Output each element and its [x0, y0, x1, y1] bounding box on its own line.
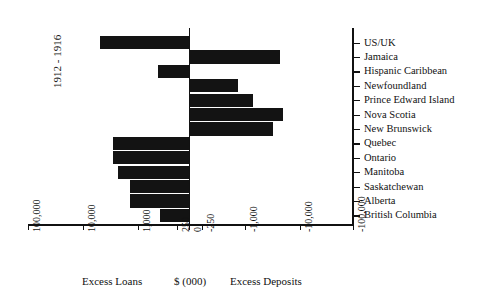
category-tick: [353, 129, 360, 130]
x-axis-tick: [177, 224, 178, 230]
category-label-nova-scotia: Nova Scotia: [364, 110, 416, 121]
category-tick: [353, 187, 360, 188]
x-axis-tick: [245, 224, 246, 230]
bar-ontario: [113, 151, 189, 164]
bar-saskatchewan: [130, 180, 189, 193]
x-axis-tick-label: 1,000: [142, 210, 152, 233]
bar-new-brunswick: [189, 122, 273, 135]
category-label-prince-edward-island: Prince Edward Island: [364, 95, 454, 106]
x-axis-tick: [300, 224, 301, 230]
bar-prince-edward-island: [189, 94, 253, 107]
category-tick: [353, 43, 360, 44]
category-tick: [353, 57, 360, 58]
category-tick: [353, 143, 360, 144]
x-axis-tick-label: -10,000: [304, 201, 314, 232]
bar-quebec: [113, 137, 189, 150]
category-label-us-uk: US/UK: [364, 38, 396, 49]
x-axis-tick-label: 10,000: [87, 205, 97, 233]
chart-figure: 1912 - 1916 US/UKJamaicaHispanic Caribbe…: [0, 0, 485, 306]
x-axis-tick-label: -100,000: [357, 196, 367, 232]
bar-jamaica: [189, 50, 280, 63]
x-axis-tick-label: -1,000: [249, 206, 259, 232]
excess-deposits-caption: Excess Deposits: [230, 276, 302, 287]
category-tick: [353, 71, 360, 72]
x-axis-tick: [138, 224, 139, 230]
bar-newfoundland: [189, 79, 238, 92]
category-label-jamaica: Jamaica: [364, 52, 398, 63]
category-label-alberta: Alberta: [364, 196, 396, 207]
x-axis-tick: [83, 224, 84, 230]
units-caption: $ (000): [174, 276, 206, 287]
category-label-saskatchewan: Saskatchewan: [364, 182, 423, 193]
category-label-newfoundland: Newfoundland: [364, 81, 426, 92]
category-tick: [353, 172, 360, 173]
x-axis-tick-label: -250: [206, 214, 216, 232]
category-tick: [353, 158, 360, 159]
bar-us-uk: [100, 36, 189, 49]
plot-area: [28, 28, 353, 224]
bar-manitoba: [118, 166, 189, 179]
x-axis-tick: [28, 224, 29, 230]
category-label-quebec: Quebec: [364, 138, 396, 149]
x-axis-tick: [353, 224, 354, 230]
category-label-ontario: Ontario: [364, 153, 396, 164]
excess-loans-caption: Excess Loans: [82, 276, 142, 287]
category-tick: [353, 100, 360, 101]
category-label-hispanic-caribbean: Hispanic Caribbean: [364, 66, 447, 77]
category-tick: [353, 86, 360, 87]
category-label-new-brunswick: New Brunswick: [364, 124, 432, 135]
x-axis-tick-label: 100,000: [32, 200, 42, 233]
x-axis-tick: [189, 224, 190, 230]
bar-hispanic-caribbean: [158, 65, 189, 78]
category-label-british-columbia: British Columbia: [364, 210, 437, 221]
category-label-manitoba: Manitoba: [364, 167, 404, 178]
x-axis-tick: [202, 224, 203, 230]
category-tick: [353, 115, 360, 116]
bar-nova-scotia: [189, 108, 283, 121]
bar-alberta: [130, 194, 189, 207]
